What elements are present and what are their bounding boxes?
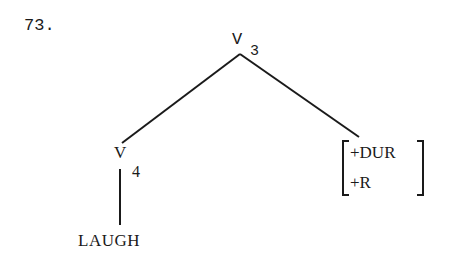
left-bracket bbox=[343, 141, 349, 195]
right-bracket bbox=[417, 141, 423, 195]
laugh-leaf-label: LAUGH bbox=[78, 232, 140, 249]
v4-node-label: V bbox=[114, 144, 126, 161]
feature-dur: +DUR bbox=[350, 144, 395, 161]
example-number: 73. bbox=[24, 17, 55, 34]
branch-root-to-features bbox=[240, 54, 359, 137]
tree-branches bbox=[0, 0, 451, 256]
root-node-subscript: 3 bbox=[250, 44, 259, 59]
v4-node-subscript: 4 bbox=[132, 164, 140, 180]
root-node-label: V bbox=[232, 31, 242, 48]
branch-root-to-v4 bbox=[122, 54, 240, 143]
feature-r: +R bbox=[350, 174, 371, 191]
